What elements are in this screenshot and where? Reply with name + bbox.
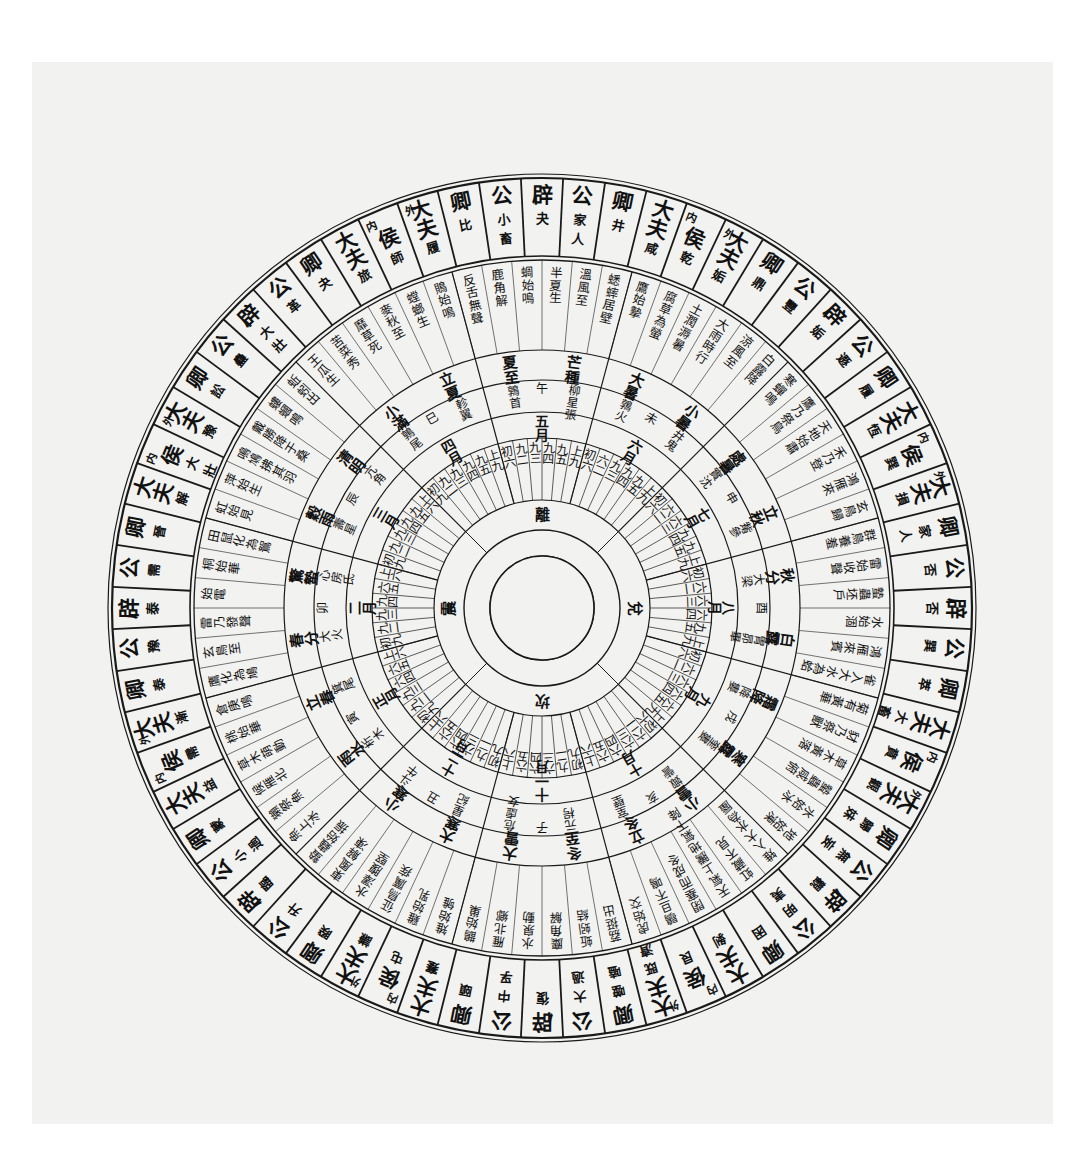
svg-text:過: 過 — [570, 969, 586, 985]
svg-text:婁: 婁 — [724, 679, 742, 695]
yao-label: 六三 — [684, 595, 709, 608]
svg-text:分: 分 — [762, 569, 782, 586]
lodge-label: 柳星張 — [564, 384, 581, 423]
sector-divider — [479, 183, 490, 260]
svg-text:蹇: 蹇 — [424, 959, 441, 977]
svg-text:睽: 睽 — [315, 922, 335, 942]
hexagram-name-label: 蒙 — [208, 815, 228, 834]
hexagram-name-label: 屯 — [388, 948, 406, 967]
hexagram-rank-label: 卿 — [934, 514, 963, 539]
solar-term-begin: 立夏 — [437, 369, 464, 406]
svg-text:屯: 屯 — [388, 948, 406, 967]
hexagram-name-label: 鼎 — [749, 274, 768, 294]
hexagram-name-label: 蠱 — [231, 351, 251, 371]
phenology-label: 玄鳥歸 — [829, 499, 872, 524]
hexagram-rank-label: 公 — [571, 1007, 594, 1034]
svg-text:蟄: 蟄 — [302, 569, 322, 586]
svg-text:夬: 夬 — [316, 273, 336, 293]
svg-text:四: 四 — [386, 595, 401, 608]
svg-text:種: 種 — [564, 368, 581, 388]
hexagram-name-label: 革 — [285, 297, 305, 317]
svg-text:六: 六 — [502, 454, 517, 470]
solar-term-mid: 霜降 — [745, 686, 782, 712]
phenology-label: 涼風至 — [721, 332, 756, 372]
phenology-label: 鴻雁來賓 — [828, 639, 883, 659]
hexagram-name-label: 明夷 — [767, 885, 799, 920]
svg-text:解: 解 — [173, 490, 191, 508]
svg-text:電: 電 — [212, 587, 228, 601]
hexagram-name-label: 頤 — [457, 982, 474, 999]
svg-text:人: 人 — [897, 528, 914, 545]
svg-text:四: 四 — [684, 608, 699, 621]
svg-text:華: 華 — [816, 689, 834, 706]
phenology-label: 豺乃祭獸 — [807, 713, 862, 746]
svg-text:畜: 畜 — [876, 704, 894, 721]
svg-text:鳴: 鳴 — [440, 303, 457, 321]
svg-text:涸: 涸 — [844, 615, 860, 629]
svg-text:壁: 壁 — [598, 309, 614, 326]
svg-text:妹: 妹 — [840, 804, 861, 825]
svg-text:見: 見 — [237, 506, 255, 523]
phenology-label: 荔挺出 — [601, 902, 623, 945]
phenology-label: 腐草為螢 — [647, 288, 680, 343]
hexagram-name-label: 豐 — [780, 297, 800, 317]
svg-text:火: 火 — [329, 628, 344, 642]
svg-text:嗑: 嗑 — [607, 963, 623, 980]
svg-text:夫: 夫 — [642, 972, 670, 1002]
phenology-label: 雀入大水為蛤 — [798, 659, 879, 689]
phenology-label: 蚯蚓結 — [575, 907, 593, 949]
svg-text:午: 午 — [536, 382, 548, 396]
svg-text:鴽: 鴽 — [256, 539, 273, 555]
svg-text:螢: 螢 — [647, 324, 665, 343]
hexagram-rank-label: 公 — [490, 183, 513, 210]
hexagram-rank-label: 大夫 — [906, 474, 955, 508]
hexagram-name-label: 巽 — [922, 639, 938, 653]
hexagram-name-label: 噬嗑 — [607, 963, 626, 999]
svg-text:妄: 妄 — [819, 834, 839, 854]
hexagram-name-label: 履 — [856, 382, 876, 401]
phenology-label: 水始涸 — [844, 615, 886, 630]
svg-text:解: 解 — [549, 910, 563, 926]
svg-text:需: 需 — [183, 744, 202, 762]
svg-text:否: 否 — [925, 601, 940, 615]
svg-text:動: 動 — [522, 910, 536, 926]
yao-label: 九四 — [542, 441, 555, 466]
solar-term-mid: 秋分 — [762, 567, 797, 586]
sector-divider — [521, 960, 525, 1038]
svg-text:訟: 訟 — [208, 382, 228, 401]
phenology-label: 蟄蟲坯戶 — [831, 587, 886, 602]
svg-text:女: 女 — [506, 793, 520, 810]
svg-text:壯: 壯 — [201, 462, 220, 480]
svg-text:頤: 頤 — [457, 982, 474, 999]
hexagram-name-label: 小畜 — [497, 212, 513, 247]
month-label: 十一月 — [535, 759, 550, 803]
hexagram-rank-label: 辟 — [116, 598, 141, 619]
svg-text:姤: 姤 — [808, 322, 828, 342]
svg-text:生: 生 — [414, 312, 432, 331]
branch-label: 子 — [536, 820, 548, 834]
hexagram-name-label: 泰 — [145, 601, 160, 616]
svg-text:交: 交 — [627, 895, 644, 913]
hexagram-name-label: 夬 — [316, 273, 336, 293]
svg-text:分: 分 — [302, 630, 322, 647]
svg-text:大: 大 — [893, 709, 911, 726]
svg-text:井: 井 — [610, 217, 626, 234]
phenology-label: 鷹始摯 — [627, 278, 652, 321]
hexagram-name-label: 巽 — [882, 454, 901, 472]
hexagram-name-label: 睽 — [315, 922, 335, 942]
month-label: 五月 — [534, 413, 549, 443]
svg-text:二: 二 — [555, 748, 569, 763]
sector-divider — [594, 956, 605, 1033]
yao-label: 九四 — [375, 595, 400, 608]
svg-text:噬: 噬 — [610, 982, 626, 999]
hexagram-name-label: 遯 — [834, 351, 854, 371]
phenology-label: 獺祭魚 — [266, 787, 306, 822]
trigram-label-兌: 兌 — [626, 601, 644, 616]
sector-divider — [479, 956, 490, 1033]
phenology-label: 王瓜生 — [305, 350, 342, 389]
yao-label: 九二 — [376, 621, 402, 636]
phenology-label: 魚上冰 — [284, 808, 323, 845]
svg-text:至: 至 — [564, 828, 581, 848]
hexagram-name-label: 否 — [922, 562, 938, 577]
svg-text:賓: 賓 — [828, 639, 845, 654]
